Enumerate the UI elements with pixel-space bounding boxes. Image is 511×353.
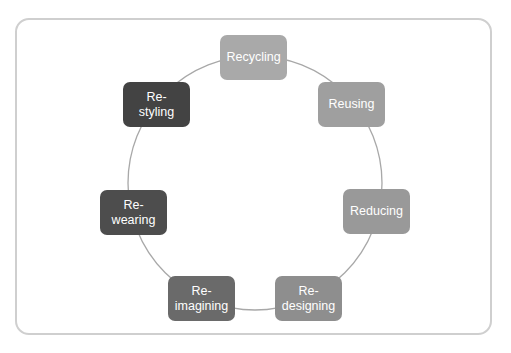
node-label: Re- styling [139, 90, 174, 120]
node-rewearing: Re- wearing [100, 190, 167, 235]
node-label: Re- imagining [175, 284, 229, 314]
node-restyling: Re- styling [123, 82, 190, 127]
node-label: Recycling [226, 50, 280, 65]
node-recycling: Recycling [220, 35, 287, 80]
node-label: Re- wearing [112, 198, 156, 228]
node-reusing: Reusing [318, 82, 385, 127]
node-label: Reducing [350, 204, 403, 219]
node-reducing: Reducing [343, 189, 410, 234]
node-label: Re- designing [282, 284, 336, 314]
node-label: Reusing [329, 97, 375, 112]
node-redesigning: Re- designing [275, 276, 342, 321]
node-reimagining: Re- imagining [168, 276, 235, 321]
